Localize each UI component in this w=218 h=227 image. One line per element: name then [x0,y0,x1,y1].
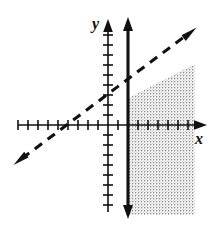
solution-region-fill [128,64,195,215]
coordinate-plane-figure: y x [0,0,218,227]
solution-region [128,64,195,215]
y-axis-arrowhead [103,19,113,32]
y-axis-label: y [90,15,100,33]
boundary-line-vertical-arrowhead-top [123,17,133,31]
x-axis-label: x [194,130,203,147]
graph-canvas: y x [0,0,218,227]
boundary-line-diagonal-arrowhead-right [182,28,197,41]
y-axis [103,24,113,212]
x-axis-arrowhead [194,120,207,130]
